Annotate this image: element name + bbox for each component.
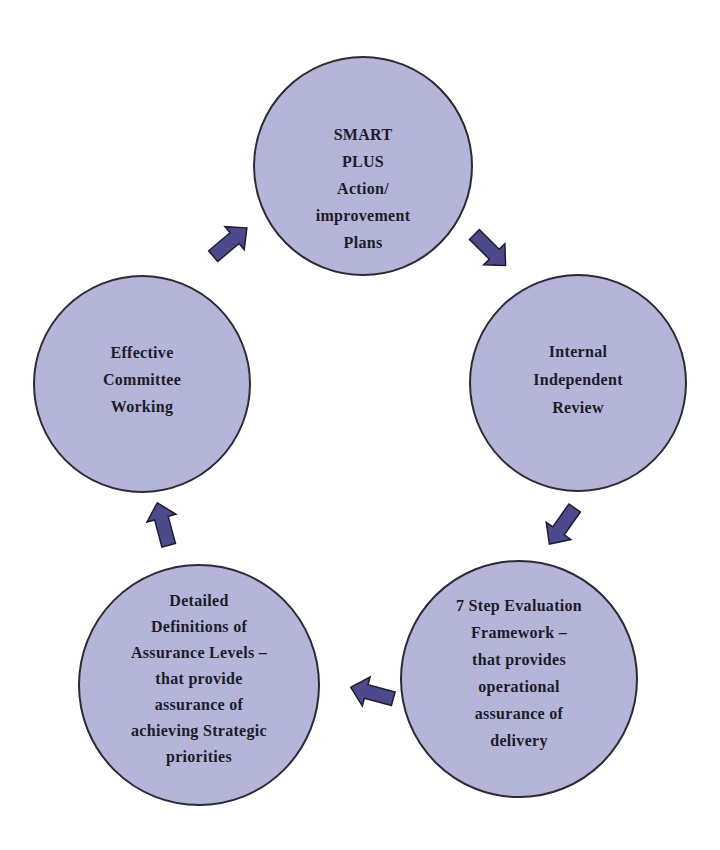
arrow-icon-assurance-levels-to-committee-working (143, 499, 183, 549)
node-label-line: Assurance Levels – (131, 644, 268, 661)
node-label-line: priorities (166, 748, 232, 766)
node-internal-review: InternalIndependentReview (470, 275, 686, 491)
node-label-line: operational (478, 678, 560, 696)
node-label-line: assurance of (155, 696, 244, 713)
assurance-cycle-diagram: SMARTPLUSAction/improvementPlansInternal… (0, 0, 720, 850)
node-label-line: 7 Step Evaluation (456, 597, 582, 615)
node-label-line: achieving Strategic (131, 722, 267, 740)
arrow-icon-internal-review-to-evaluation-framework (537, 499, 587, 552)
node-label-line: Internal (549, 343, 608, 360)
arrow-icon-smart-plus-to-internal-review (464, 224, 516, 276)
node-label-line: that provide (155, 670, 242, 688)
node-label-line: that provides (472, 651, 566, 669)
node-label-line: Definitions of (151, 618, 248, 635)
node-label-line: Detailed (169, 592, 228, 609)
node-label-line: improvement (316, 207, 411, 225)
node-label-line: Committee (103, 371, 181, 388)
node-label-line: Framework – (471, 624, 568, 641)
node-evaluation-framework: 7 Step EvaluationFramework –that provide… (401, 561, 637, 797)
node-assurance-levels: DetailedDefinitions ofAssurance Levels –… (79, 565, 319, 805)
node-label-line: Effective (110, 344, 173, 361)
node-label-line: Action/ (337, 180, 389, 197)
node-label-line: SMART (334, 126, 393, 143)
node-label-line: Working (111, 398, 174, 416)
node-label-line: PLUS (342, 153, 384, 170)
arrow-icon-committee-working-to-smart-plus (204, 216, 257, 267)
arrow-icon-evaluation-framework-to-assurance-levels (347, 673, 397, 713)
node-label-line: delivery (490, 732, 548, 750)
node-label-line: Independent (533, 371, 623, 389)
node-label: EffectiveCommitteeWorking (103, 344, 181, 416)
node-label-line: Review (552, 399, 604, 416)
node-label-line: Plans (344, 234, 383, 251)
node-label-line: assurance of (475, 705, 564, 722)
node-committee-working: EffectiveCommitteeWorking (34, 276, 250, 492)
node-smart-plus: SMARTPLUSAction/improvementPlans (254, 57, 472, 275)
